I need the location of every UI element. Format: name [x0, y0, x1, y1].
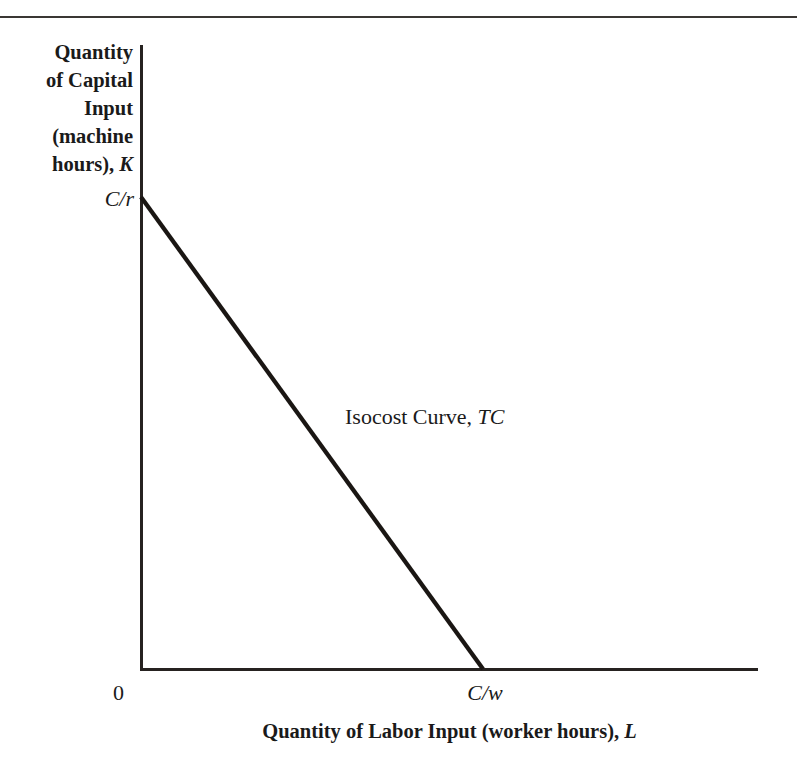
- isocost-curve-label-text: Isocost Curve,: [345, 404, 478, 429]
- isocost-curve-label-symbol: TC: [478, 404, 505, 429]
- y-axis-title-line-2: of Capital: [46, 69, 133, 91]
- x-axis-title: Quantity of Labor Input (worker hours), …: [141, 721, 758, 742]
- origin-label: 0: [82, 682, 124, 704]
- isocost-curve-figure: Quantityof CapitalInput(machinehours), K…: [0, 0, 797, 768]
- y-axis-title-line-1: Quantity: [54, 41, 133, 63]
- x-intercept-label: C/w: [437, 682, 533, 704]
- isocost-curve-label: Isocost Curve, TC: [345, 406, 505, 428]
- y-axis-variable-symbol: K: [119, 153, 133, 175]
- x-axis-title-text: Quantity of Labor Input (worker hours),: [262, 720, 624, 742]
- y-axis-title: Quantityof CapitalInput(machinehours), K: [0, 38, 133, 178]
- y-axis-title-line-3: Input: [84, 97, 133, 119]
- x-axis-variable-symbol: L: [624, 720, 637, 742]
- y-axis-title-line-4: (machine: [52, 125, 133, 147]
- y-axis-title-line-5: hours),: [52, 153, 119, 175]
- y-intercept-label: C/r: [43, 188, 134, 210]
- isocost-line: [141, 197, 483, 669]
